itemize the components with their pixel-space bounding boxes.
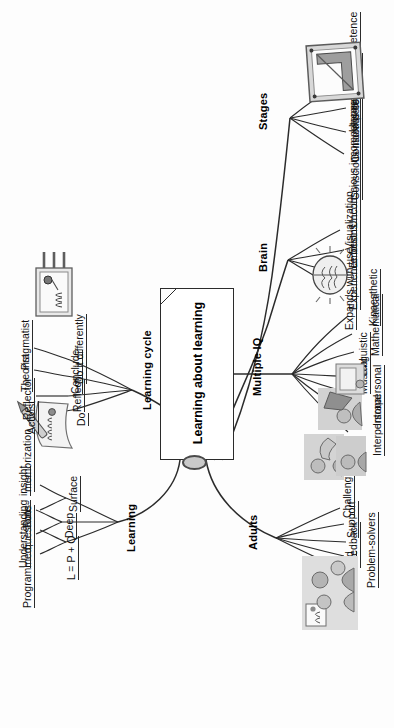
flipchart-easel-icon: [28, 246, 90, 322]
node-deep[interactable]: Deep: [64, 513, 77, 538]
node-do-it-differently[interactable]: Do it differently: [74, 314, 87, 384]
central-topic-box[interactable]: Learning about learning: [160, 288, 234, 460]
node-surface[interactable]: Surface: [68, 476, 81, 512]
node-intrapersonal[interactable]: Intrapersonal: [372, 365, 385, 426]
node-do[interactable]: Do: [76, 413, 89, 426]
hub-marker-icon: [182, 455, 207, 470]
node-l-p-q[interactable]: L = P + Q: [66, 536, 79, 580]
branch-label-brain[interactable]: Brain: [258, 243, 269, 272]
node-rote[interactable]: Rote: [22, 506, 35, 528]
branch-label-stages[interactable]: Stages: [258, 93, 269, 130]
page-curl-icon: [160, 288, 176, 304]
branch-label-learning[interactable]: Learning: [126, 504, 137, 552]
framed-bar-chart-icon: [300, 36, 370, 108]
node-kinaesthetic[interactable]: Kinaesthetic: [368, 269, 381, 326]
branch-label-learning-cycle[interactable]: Learning cycle: [142, 330, 153, 410]
central-topic-label: Learning about learning: [161, 287, 235, 459]
node-problem-solvers[interactable]: Problem-solvers: [366, 512, 379, 588]
people-photos-group: [300, 362, 370, 482]
mindmap-page: Learning about learning Learning L = P +…: [0, 0, 394, 728]
brain-illustration: [298, 244, 360, 306]
node-pragmatist[interactable]: Pragmatist: [20, 320, 33, 370]
meeting-people-photo: [298, 554, 362, 632]
branch-label-multiple-iq[interactable]: Multiple IQ: [252, 338, 263, 396]
branch-label-adults[interactable]: Adults: [248, 515, 259, 550]
mindmap-canvas: Learning about learning Learning L = P +…: [0, 0, 394, 728]
